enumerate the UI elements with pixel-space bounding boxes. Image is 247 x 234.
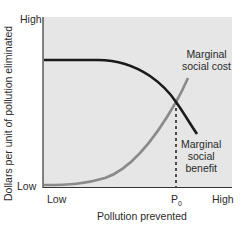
chart-plot [0,0,247,234]
marginal-social-benefit-label: Marginal social benefit [181,138,221,174]
cost-label-line1: Marginal [182,48,231,60]
y-tick-low: Low [17,180,36,192]
p0-subscript: 0 [178,200,182,207]
marginal-social-cost-label: Marginal social cost [182,48,231,72]
p0-label: P [171,193,178,205]
x-axis-title: Pollution prevented [97,210,187,222]
cost-label-line2: social cost [182,60,231,72]
x-tick-p0: P0 [171,193,182,210]
marginal-cost-benefit-chart: High Low Low P0 High Pollution prevented… [0,0,247,234]
x-tick-high: High [212,193,234,205]
y-axis-title: Dollars per unit of pollution eliminated [2,26,14,201]
benefit-label-line3: benefit [181,162,221,174]
y-tick-high: High [20,13,42,25]
benefit-label-line1: Marginal [181,138,221,150]
benefit-label-line2: social [181,150,221,162]
x-tick-low: Low [47,193,66,205]
